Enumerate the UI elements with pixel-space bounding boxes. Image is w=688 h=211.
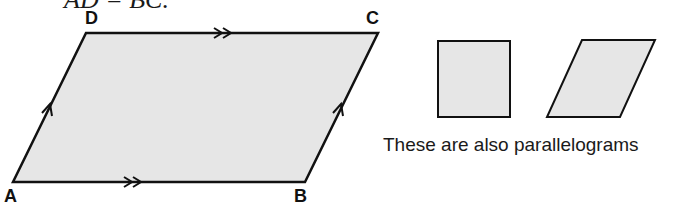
slanted-parallelogram-example <box>547 40 655 117</box>
vertex-label-d: D <box>85 8 98 29</box>
main-parallelogram <box>13 33 378 182</box>
vertex-label-b: B <box>294 186 307 207</box>
vertex-label-a: A <box>4 186 17 207</box>
vertex-label-c: C <box>366 8 379 29</box>
parallelogram-diagram <box>0 0 688 211</box>
examples-caption: These are also parallelograms <box>383 134 639 156</box>
rectangle-example <box>438 41 510 117</box>
